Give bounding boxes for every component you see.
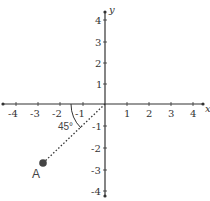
x-tick-label: -3 bbox=[30, 108, 40, 119]
point-a bbox=[39, 159, 47, 167]
x-tick-label: 4 bbox=[190, 108, 196, 119]
x-tick-label: -1 bbox=[75, 108, 85, 119]
point-a-label: A bbox=[32, 167, 40, 181]
coordinate-plane: x y -4 -3 -2 -1 1 2 3 4 4 3 2 1 -1 -2 -3 bbox=[0, 0, 210, 201]
x-tick-label: 1 bbox=[124, 108, 130, 119]
y-tick-label: -4 bbox=[91, 186, 101, 197]
x-axis-label: x bbox=[205, 103, 210, 114]
y-tick-label: -1 bbox=[92, 121, 102, 132]
y-tick-label: -3 bbox=[91, 165, 101, 176]
y-axis-label: y bbox=[108, 4, 115, 15]
y-tick-label: 1 bbox=[96, 79, 102, 90]
y-tick-label: 2 bbox=[95, 58, 101, 69]
x-tick-label: -2 bbox=[52, 108, 62, 119]
x-tick-label: 2 bbox=[146, 108, 152, 119]
y-tick-label: -2 bbox=[91, 143, 101, 154]
x-axis bbox=[1, 102, 204, 105]
y-tick-label: 3 bbox=[95, 37, 101, 48]
x-tick-label: -4 bbox=[8, 108, 18, 119]
y-tick-label: 4 bbox=[95, 15, 101, 26]
angle-label: 45° bbox=[58, 121, 73, 132]
x-tick-label: 3 bbox=[168, 108, 174, 119]
